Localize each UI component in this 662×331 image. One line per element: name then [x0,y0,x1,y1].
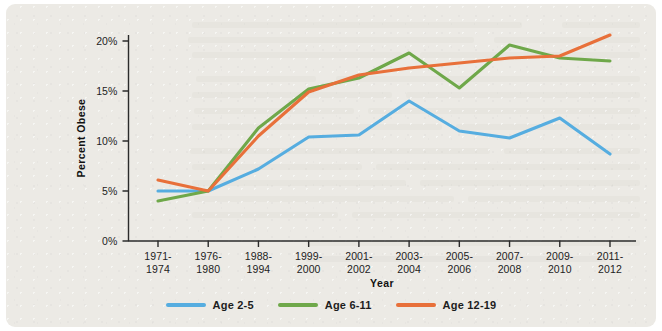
x-tick-label: 2003-2004 [395,250,423,275]
y-tick-label: 20% [96,35,117,47]
legend-item-label: Age 12-19 [443,299,497,311]
series-line-age-2-5 [158,101,610,191]
y-axis-ticks: 0%5%10%15%20% [96,35,129,247]
y-tick-label: 10% [96,135,117,147]
legend-item-label: Age 2-5 [213,299,254,311]
x-tick-label: 1999-2000 [295,250,323,275]
y-tick-label: 15% [96,85,117,97]
x-tick-label: 2001-2002 [345,250,373,275]
line-swatch-icon [166,303,206,307]
legend-item-age-2-5[interactable]: Age 2-5 [166,299,254,311]
figure-panel: 0%5%10%15%20% 1971-19741976-19801988-199… [6,4,656,327]
series-line-age-6-11 [158,45,610,201]
series-layer [158,35,610,201]
legend-item-age-6-11[interactable]: Age 6-11 [278,299,372,311]
y-tick-label: 0% [102,235,117,247]
legend-item-label: Age 6-11 [325,299,372,311]
x-tick-label: 2011-2012 [597,250,624,275]
x-tick-label: 2007-2008 [496,250,524,275]
x-axis-ticks: 1971-19741976-19801988-19941999-20002001… [144,241,623,276]
line-chart-plot: 0%5%10%15%20% 1971-19741976-19801988-199… [6,4,656,327]
legend-item-age-12-19[interactable]: Age 12-19 [396,299,497,311]
line-swatch-icon [396,303,436,307]
line-swatch-icon [278,303,318,307]
y-tick-label: 5% [102,185,117,197]
chart-legend: Age 2-5Age 6-11Age 12-19 [6,299,656,311]
x-axis-title: Year [370,277,394,289]
x-tick-label: 1971-1974 [144,250,172,275]
x-tick-label: 1988-1994 [245,250,273,275]
x-tick-label: 1976-1980 [195,250,223,275]
y-axis-title: Percent Obese [75,99,87,178]
x-tick-label: 2009-2010 [546,250,574,275]
x-tick-label: 2005-2006 [446,250,474,275]
